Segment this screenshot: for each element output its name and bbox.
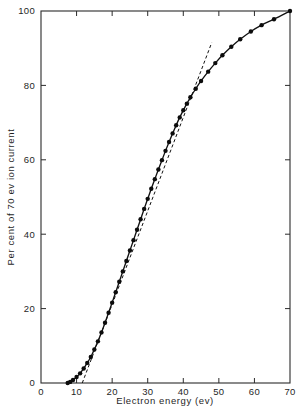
data-point [142, 207, 146, 211]
data-point [110, 300, 114, 304]
chart-canvas: 010203040506070 020406080100 Electron en… [0, 0, 307, 416]
data-point [114, 290, 118, 294]
data-point [163, 149, 167, 153]
data-point [272, 17, 276, 21]
y-tick-label: 60 [24, 154, 35, 165]
data-point [131, 238, 135, 242]
data-point [81, 366, 85, 370]
y-axis-ticks-right [285, 85, 290, 308]
data-point [213, 61, 217, 65]
data-point [220, 53, 224, 57]
data-point [249, 29, 253, 33]
data-point [178, 115, 182, 119]
data-point [78, 371, 82, 375]
data-point [74, 375, 78, 379]
data-point [181, 108, 185, 112]
y-axis-ticks-left [41, 85, 46, 308]
x-axis-title: Electron energy (ev) [116, 395, 214, 406]
data-point [206, 69, 210, 73]
data-point [170, 131, 174, 135]
data-point [71, 378, 75, 382]
data-point [138, 217, 142, 221]
data-point [174, 123, 178, 127]
data-point [288, 9, 292, 13]
data-point [167, 140, 171, 144]
data-point [153, 177, 157, 181]
data-point [99, 330, 103, 334]
data-point [92, 347, 96, 351]
data-point [85, 361, 89, 365]
data-point [117, 280, 121, 284]
data-point [135, 228, 139, 232]
y-tick-label: 80 [24, 80, 35, 91]
data-point [229, 45, 233, 49]
data-point [194, 87, 198, 91]
data-point [89, 355, 93, 359]
x-tick-label: 50 [213, 386, 224, 397]
axes-box [41, 11, 290, 383]
data-point-markers [65, 9, 292, 385]
y-axis-title: Per cent of 70 ev ion current [5, 129, 16, 266]
data-point [106, 310, 110, 314]
data-point [188, 95, 192, 99]
y-axis-tick-labels: 020406080100 [18, 5, 35, 388]
x-tick-label: 60 [249, 386, 260, 397]
data-point [96, 339, 100, 343]
ionization-efficiency-chart: 010203040506070 020406080100 Electron en… [0, 0, 307, 416]
x-tick-label: 0 [38, 386, 44, 397]
data-point [259, 23, 263, 27]
data-point [199, 79, 203, 83]
y-tick-label: 40 [24, 229, 35, 240]
x-tick-label: 70 [284, 386, 295, 397]
data-point [156, 167, 160, 171]
data-point [160, 158, 164, 162]
data-point [124, 259, 128, 263]
data-point [103, 321, 107, 325]
data-point [149, 187, 153, 191]
x-tick-label: 10 [71, 386, 82, 397]
ionization-curve [68, 11, 290, 383]
plot-frame [41, 11, 290, 383]
y-tick-label: 100 [18, 5, 35, 16]
data-point [238, 37, 242, 41]
x-axis-ticks-bottom [77, 378, 255, 383]
data-point [185, 101, 189, 105]
data-point [146, 197, 150, 201]
y-tick-label: 0 [29, 377, 35, 388]
y-tick-label: 20 [24, 303, 35, 314]
x-axis-ticks-top [77, 11, 255, 16]
data-point [121, 269, 125, 273]
data-point [128, 248, 132, 252]
